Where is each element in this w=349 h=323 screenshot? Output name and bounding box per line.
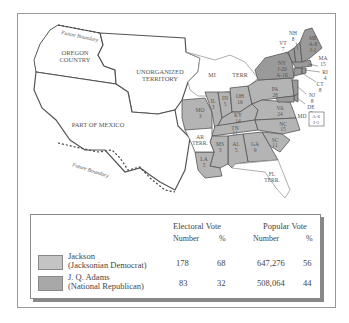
popular-vote-header: Popular Vote bbox=[263, 221, 307, 231]
adams-electoral-percent: 32 bbox=[217, 278, 226, 288]
svg-text:5: 5 bbox=[235, 147, 238, 153]
svg-text:3: 3 bbox=[212, 104, 215, 110]
svg-text:4: 4 bbox=[324, 75, 327, 81]
svg-text:3: 3 bbox=[219, 147, 222, 153]
jackson-electoral-percent: 68 bbox=[217, 258, 226, 268]
svg-text:5: 5 bbox=[224, 101, 227, 107]
jackson-popular-number: 647,276 bbox=[257, 258, 285, 268]
svg-text:15: 15 bbox=[320, 61, 326, 67]
svg-text:24: 24 bbox=[277, 111, 283, 117]
mi-label: MI bbox=[208, 72, 215, 78]
adams-swatch bbox=[38, 276, 63, 291]
svg-text:9: 9 bbox=[254, 147, 257, 153]
adams-name: J. Q. Adams (National Republican) bbox=[68, 273, 144, 291]
svg-text:11: 11 bbox=[272, 142, 278, 148]
svg-text:11: 11 bbox=[232, 130, 238, 136]
svg-text:5: 5 bbox=[203, 162, 206, 168]
popular-number-label: Number bbox=[253, 234, 279, 243]
adams-electoral-number: 83 bbox=[179, 278, 188, 288]
terr-label: TERR bbox=[232, 72, 247, 78]
electoral-percent-label: % bbox=[219, 234, 226, 243]
adams-party: (National Republican) bbox=[68, 282, 144, 291]
state-va bbox=[252, 100, 296, 120]
popular-percent-label: % bbox=[306, 234, 313, 243]
fl-label-2: TERR. bbox=[264, 177, 280, 183]
future-boundary-south-label: Future Boundary bbox=[71, 161, 110, 179]
florida-territory-region bbox=[232, 160, 290, 198]
adams-popular-number: 508,064 bbox=[257, 278, 285, 288]
svg-text:8: 8 bbox=[292, 36, 295, 42]
svg-text:A-16: A-16 bbox=[276, 72, 288, 78]
unorganized-label-line2: TERRITORY bbox=[142, 75, 178, 82]
election-legend: Electoral Vote Popular Vote Number % Num… bbox=[30, 214, 321, 299]
svg-text:7: 7 bbox=[282, 46, 285, 52]
md-label: MD bbox=[298, 113, 307, 119]
state-ny bbox=[255, 52, 294, 80]
svg-text:15: 15 bbox=[280, 126, 286, 132]
jackson-swatch bbox=[38, 255, 63, 270]
oregon-label-line1: OREGON bbox=[61, 49, 88, 56]
state-ct bbox=[294, 68, 302, 76]
adams-popular-percent: 44 bbox=[303, 278, 312, 288]
svg-text:14: 14 bbox=[235, 118, 241, 124]
jackson-party: (Jacksonian Democrat) bbox=[68, 261, 147, 270]
electoral-number-label: Number bbox=[173, 234, 199, 243]
electoral-vote-header: Electoral Vote bbox=[173, 221, 221, 231]
svg-text:28: 28 bbox=[272, 92, 278, 98]
svg-text:A-6: A-6 bbox=[312, 114, 320, 119]
svg-text:J-5: J-5 bbox=[313, 120, 320, 125]
unorganized-label-line1: UNORGANIZED bbox=[136, 68, 184, 75]
mexico-label: PART OF MEXICO bbox=[72, 121, 125, 128]
ar-label-2: TERR. bbox=[192, 140, 208, 146]
jackson-popular-percent: 56 bbox=[303, 258, 312, 268]
svg-text:16: 16 bbox=[237, 99, 243, 105]
jackson-name: Jackson (Jacksonian Democrat) bbox=[68, 252, 147, 270]
svg-text:J-1: J-1 bbox=[310, 47, 317, 53]
state-mo bbox=[182, 98, 212, 132]
jackson-electoral-number: 178 bbox=[176, 258, 189, 268]
svg-text:3: 3 bbox=[199, 113, 202, 119]
oregon-label-line2: COUNTRY bbox=[59, 56, 90, 63]
svg-text:8: 8 bbox=[319, 87, 322, 93]
